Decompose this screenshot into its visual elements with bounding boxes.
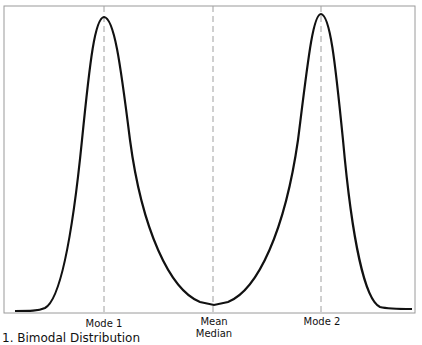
mode1-label: Mode 1	[86, 318, 123, 330]
median-label: Median	[196, 328, 232, 340]
mean-label: Mean	[200, 316, 227, 328]
figure-caption: 1. Bimodal Distribution	[2, 331, 140, 345]
mode2-label: Mode 2	[304, 316, 341, 328]
plot-frame	[4, 6, 415, 313]
